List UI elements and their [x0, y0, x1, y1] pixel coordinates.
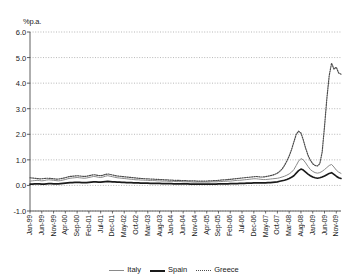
legend-item-spain[interactable]: Spain	[150, 265, 187, 274]
data-series-layer	[30, 63, 341, 184]
x-axis-tick-label: Feb-01	[85, 215, 92, 236]
x-axis-tick-label: Oct-02	[132, 215, 139, 235]
legend-label-spain: Spain	[168, 265, 187, 274]
x-axis-tick-label: Dec-01	[108, 215, 115, 236]
x-axis-tick-label: May-07	[262, 215, 269, 237]
legend-line-spain-icon	[150, 266, 165, 273]
x-axis-tick-label: Aug-08	[297, 215, 304, 236]
x-axis-tick-label: Jun-09	[321, 215, 328, 235]
x-axis-tick-label: Jun-04	[179, 215, 186, 235]
x-axis-tick-label: Feb-06	[226, 215, 233, 236]
y-axis-tick-label: 1.0	[0, 155, 26, 164]
x-axis-tick-label: Jul-01	[97, 215, 104, 233]
x-axis-tick-label: Aug-03	[156, 215, 163, 236]
x-axis-tick-label: Jan-99	[26, 215, 33, 235]
x-axis-tick-label: Jan-09	[309, 215, 316, 235]
x-axis-tick-label: Nov-09	[332, 215, 339, 236]
chart-legend: Italy Spain Greece	[0, 265, 348, 274]
legend-item-greece[interactable]: Greece	[196, 265, 239, 274]
legend-line-greece-icon	[196, 266, 211, 273]
y-axis-tick-label: 5.0	[0, 53, 26, 62]
legend-item-italy[interactable]: Italy	[109, 265, 141, 274]
y-axis-tick-label: 0.0	[0, 181, 26, 190]
y-axis-tick-label: 3.0	[0, 104, 26, 113]
legend-line-italy-icon	[109, 266, 124, 273]
x-axis-tick-label: May-02	[120, 215, 127, 237]
chart-container: %p.a. 6.05.04.03.02.01.00.0-1.0 Jan-99Ju…	[0, 0, 348, 278]
x-axis-tick-label: Mar-08	[285, 215, 292, 236]
x-axis-tick-label: Sep-05	[214, 215, 221, 236]
series-line-italy	[30, 159, 341, 183]
legend-label-greece: Greece	[214, 265, 239, 274]
x-axis-tick-label: Oct-07	[273, 215, 280, 235]
x-axis-tick-label: Nov-99	[50, 215, 57, 236]
y-axis-tick-label: -1.0	[0, 207, 26, 216]
legend-label-italy: Italy	[127, 265, 141, 274]
x-axis-tick-label: Mar-03	[144, 215, 151, 236]
x-axis-tick-label: Jun-99	[38, 215, 45, 235]
x-axis-tick-label: Jul-06	[238, 215, 245, 233]
series-line-greece	[30, 63, 341, 181]
x-axis-tick-label: Sep-00	[73, 215, 80, 236]
x-axis-tick-label: Jan-04	[167, 215, 174, 235]
axis-lines	[27, 32, 341, 214]
y-axis-tick-label: 4.0	[0, 79, 26, 88]
y-axis-tick-label: 6.0	[0, 28, 26, 37]
y-axis-tick-label: 2.0	[0, 130, 26, 139]
x-axis-tick-label: Apr-00	[61, 215, 68, 235]
x-axis-tick-label: Nov-04	[191, 215, 198, 236]
x-axis-tick-label: Apr-05	[203, 215, 210, 235]
y-axis-unit-label: %p.a.	[23, 17, 41, 26]
x-axis-tick-label: Dec-06	[250, 215, 257, 236]
